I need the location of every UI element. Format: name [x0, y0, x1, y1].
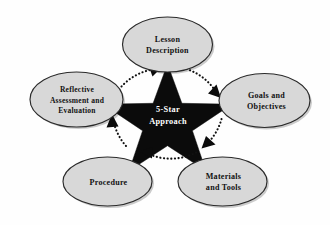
node-label-goals-and-objectives-line2: Objectives	[247, 102, 286, 111]
node-shape-lesson-description[interactable]	[123, 17, 213, 72]
node-procedure[interactable]: Procedure	[63, 157, 152, 206]
arrow-head-to-materials-and-tools	[202, 136, 216, 149]
node-reflective-assessment-and-evaluation[interactable]: Reflective Assessment and Evaluation	[30, 72, 123, 127]
node-materials-and-tools[interactable]: Materials and Tools	[178, 157, 267, 206]
node-label-reflective-assessment-line1: Reflective	[60, 85, 95, 94]
five-star-approach-diagram: Lesson Description Goals and Objectives …	[0, 0, 330, 225]
node-label-procedure: Procedure	[90, 178, 128, 187]
node-label-reflective-assessment-line3: Evaluation	[58, 106, 96, 115]
node-lesson-description[interactable]: Lesson Description	[123, 17, 213, 72]
center-label-line2: Approach	[149, 117, 187, 126]
arrow-arc-procedure-to-reflective	[115, 125, 127, 146]
node-label-lesson-description-line1: Lesson	[155, 35, 181, 44]
node-label-reflective-assessment-line2: Assessment and	[50, 96, 105, 105]
arrow-arc-goals-to-materials	[211, 119, 222, 140]
arrow-arc-reflective-to-lesson	[122, 70, 153, 87]
node-label-materials-and-tools-line1: Materials	[206, 172, 242, 181]
diagram-canvas: Lesson Description Goals and Objectives …	[0, 0, 330, 225]
node-goals-and-objectives[interactable]: Goals and Objectives	[219, 74, 310, 128]
node-label-materials-and-tools-line2: and Tools	[206, 183, 241, 192]
node-label-lesson-description-line2: Description	[146, 46, 189, 55]
node-label-goals-and-objectives-line1: Goals and	[248, 91, 285, 100]
node-shape-materials-and-tools[interactable]	[178, 157, 267, 206]
node-shape-goals-and-objectives[interactable]	[219, 74, 310, 128]
center-label-line1: 5-Star	[156, 105, 180, 114]
